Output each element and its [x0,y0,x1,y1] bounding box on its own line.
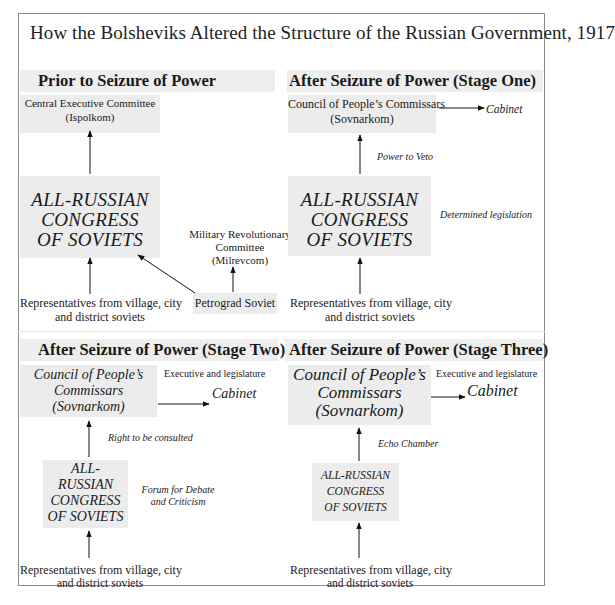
echo-note: Echo Chamber [378,438,438,449]
heading-prior: Prior to Seizure of Power [38,71,216,91]
sovnarkom-line1-stage2: Council of People’s [20,367,157,384]
congress-line2-stage3: CONGRESS [312,485,399,499]
heading-stage1: After Seizure of Power (Stage One) [289,71,536,91]
forum-note-line1: Forum for Debate [138,484,218,496]
milrevcom-line1: Military Revolutionary [180,227,300,241]
sovnarkom-line1-stage1: Council of People’s Commissars [288,97,436,111]
congress-line4-stage2: OF SOVIETS [43,509,128,526]
congress-line1-stage1: ALL-RUSSIAN [288,190,431,211]
reps-line1-stage3: Representatives from village, city [290,563,450,577]
forum-note-line2: and Criticism [138,496,218,508]
diagram-title: How the Bolsheviks Altered the Structure… [30,22,615,44]
reps-line2-stage2: and district soviets [20,577,180,591]
milrevcom-line2: Committee [180,241,300,254]
reps-line2-stage3: and district soviets [290,577,450,591]
petrograd-label: Petrograd Soviet [193,296,277,310]
congress-line1-prior: ALL-RUSSIAN [20,190,160,211]
congress-line3-prior: OF SOVIETS [20,230,160,251]
congress-line3-stage3: OF SOVIETS [312,501,399,515]
sovnarkom-line2-stage3: Commissars [288,384,431,402]
cabinet-label-stage1: Cabinet [486,103,522,115]
congress-line2-stage1: CONGRESS [288,210,431,231]
cabinet-label-stage3: Cabinet [467,382,518,400]
congress-line3-stage2: CONGRESS [43,493,128,510]
reps-line1-stage2: Representatives from village, city [20,563,180,577]
heading-stage2: After Seizure of Power (Stage Two) [38,340,285,360]
congress-line2-prior: CONGRESS [20,210,160,231]
sovnarkom-line3-stage3: (Sovnarkom) [288,402,431,420]
sovnarkom-line2-stage1: (Sovnarkom) [288,112,436,126]
congress-line3-stage1: OF SOVIETS [288,230,431,251]
cec-sublabel: (Ispolkom) [20,111,160,124]
reps-line2-prior: and district soviets [20,310,180,324]
consult-note: Right to be consulted [108,432,193,443]
legislation-note: Determined legislation [440,209,532,220]
reps-line2-stage1: and district soviets [290,310,450,324]
congress-line2-stage2: RUSSIAN [43,477,128,494]
sovnarkom-line1-stage3: Council of People’s [288,366,431,384]
sovnarkom-line2-stage2: Commissars [20,383,157,400]
congress-line1-stage2: ALL- [43,461,128,477]
exec-note-stage2: Executive and legislature [164,368,265,379]
milrevcom-line3: (Milrevcom) [180,254,300,267]
cabinet-label-stage2: Cabinet [212,386,256,402]
veto-note: Power to Veto [377,151,433,162]
exec-note-stage3: Executive and legislature [436,368,537,379]
cec-label: Central Executive Committee [20,97,160,110]
heading-stage3: After Seizure of Power (Stage Three) [289,340,548,360]
reps-line1-prior: Representatives from village, city [20,296,180,310]
congress-line1-stage3: ALL-RUSSIAN [312,469,399,483]
sovnarkom-line3-stage2: (Sovnarkom) [20,399,157,416]
horizontal-divider [18,331,545,332]
reps-line1-stage1: Representatives from village, city [290,296,450,310]
